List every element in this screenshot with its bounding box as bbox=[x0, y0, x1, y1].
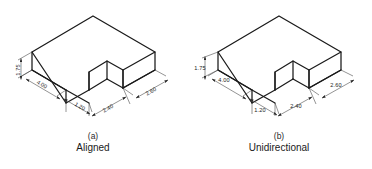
figure-a-caption: (a) Aligned bbox=[0, 131, 186, 154]
dimension-width-left-a: 4.00 bbox=[22, 70, 66, 99]
dimension-value-notch-front-b: 1.20 bbox=[254, 107, 265, 113]
dimension-value-height-a: 1.75 bbox=[15, 64, 21, 75]
dimension-value-depth-right-a: 2.60 bbox=[145, 86, 158, 97]
dimension-value-notch-right-b: 2.40 bbox=[290, 103, 301, 109]
figure-b-caption-title: Unidirectional bbox=[186, 142, 372, 155]
figure-b-caption-letter: (b) bbox=[186, 131, 372, 142]
dimension-notch-front-a: 1.20 bbox=[64, 99, 92, 114]
dimension-value-depth-right-b: 2.60 bbox=[330, 82, 341, 88]
figure-a-aligned: 1.75 4.00 1.20 2.40 bbox=[0, 0, 186, 169]
isometric-block-a bbox=[32, 16, 155, 103]
dimension-notch-right-a: 2.40 bbox=[89, 88, 130, 116]
isometric-block-b bbox=[218, 16, 341, 103]
dimension-width-left-b: 4.00 bbox=[208, 70, 252, 99]
figure-a-caption-letter: (a) bbox=[0, 131, 186, 142]
dimension-notch-front-b: 1.20 bbox=[250, 99, 279, 115]
dimension-value-width-left-b: 4.00 bbox=[218, 77, 229, 83]
figure-a-caption-title: Aligned bbox=[0, 142, 186, 155]
dimension-notch-right-b: 2.40 bbox=[275, 88, 316, 116]
dimension-value-notch-front-a: 1.20 bbox=[74, 101, 87, 112]
dimension-height-b: 1.75 bbox=[194, 52, 218, 80]
dimension-value-height-b: 1.75 bbox=[194, 65, 205, 71]
isometric-dimensioning-comparison: 1.75 4.00 1.20 2.40 bbox=[0, 0, 372, 169]
dimension-value-width-left-a: 4.00 bbox=[36, 79, 49, 90]
figure-b-caption: (b) Unidirectional bbox=[186, 131, 372, 154]
figure-b-unidirectional: 1.75 4.00 1.20 2.40 bbox=[186, 0, 372, 169]
